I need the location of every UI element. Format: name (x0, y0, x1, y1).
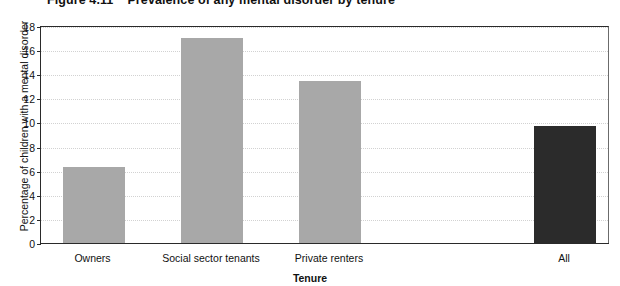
gridline (41, 51, 608, 52)
y-axis-tick-label: 14 (23, 69, 41, 81)
gridline (41, 75, 608, 76)
x-axis-tick-label: Social sector tenants (162, 252, 259, 264)
gridline (41, 27, 608, 28)
bar (534, 126, 596, 244)
x-axis-tick-label: Owners (74, 252, 110, 264)
plot-area: 024681012141618 (40, 26, 609, 244)
y-axis-tick-label: 0 (29, 238, 41, 250)
y-axis-tick-label: 10 (23, 117, 41, 129)
y-axis-tick-label: 8 (29, 142, 41, 154)
figure-container: Figure 4.11Prevalence of any mental diso… (0, 0, 620, 286)
x-axis-tick-label: Private renters (295, 252, 363, 264)
figure-title-text: Prevalence of any mental disorder by ten… (127, 0, 395, 7)
x-axis-title: Tenure (0, 272, 620, 284)
y-axis-tick-label: 4 (29, 190, 41, 202)
y-axis-tick-label: 12 (23, 93, 41, 105)
y-axis-tick-label: 16 (23, 45, 41, 57)
y-axis-tick-label: 6 (29, 166, 41, 178)
y-axis-tick-label: 18 (23, 21, 41, 33)
bar (299, 81, 361, 244)
figure-number: Figure 4.11 (47, 0, 113, 7)
y-axis-tick-label: 2 (29, 214, 41, 226)
figure-title: Figure 4.11Prevalence of any mental diso… (47, 0, 395, 7)
bar (181, 38, 243, 244)
x-axis-line (40, 243, 609, 244)
x-axis-tick-label: All (558, 252, 570, 264)
bar (63, 167, 125, 244)
